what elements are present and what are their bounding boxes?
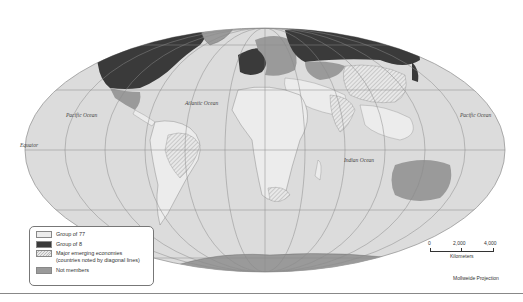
- legend-item-not-members: Not members: [36, 267, 147, 274]
- scale-unit: Kilometers: [450, 253, 474, 259]
- ocean-label-indian: Indian Ocean: [343, 157, 374, 163]
- scale-bar: 0 2,000 4,000 Kilometers: [428, 240, 498, 262]
- legend-label: Major emerging economies (countries note…: [56, 250, 147, 264]
- swatch-group-of-77: [36, 231, 52, 238]
- scale-tick-2000: 2,000: [453, 240, 466, 246]
- ocean-label-pacific-east: Pacific Ocean: [459, 112, 492, 118]
- equator-label: Equator: [19, 142, 39, 148]
- scale-line: [430, 248, 494, 252]
- legend-item-group-of-77: Group of 77: [36, 231, 147, 238]
- scale-tick-0: 0: [428, 240, 431, 246]
- swatch-major-emerging: [36, 250, 52, 257]
- ocean-label-atlantic: Atlantic Ocean: [184, 100, 218, 106]
- legend-item-group-of-8: Group of 8: [36, 241, 147, 248]
- legend-label: Group of 8: [56, 241, 82, 248]
- legend-label: Group of 77: [56, 231, 85, 238]
- scale-mid-tick: [461, 248, 462, 252]
- swatch-not-members: [36, 267, 52, 274]
- legend-label: Not members: [56, 267, 89, 274]
- map-legend: Group of 77 Group of 8 Major emerging ec…: [29, 226, 154, 286]
- ocean-label-pacific-west: Pacific Ocean: [65, 112, 98, 118]
- divider: [0, 293, 523, 294]
- legend-item-major-emerging: Major emerging economies (countries note…: [36, 250, 147, 264]
- projection-label: Mollweide Projection: [453, 275, 499, 281]
- swatch-group-of-8: [36, 241, 52, 248]
- scale-tick-4000: 4,000: [484, 240, 497, 246]
